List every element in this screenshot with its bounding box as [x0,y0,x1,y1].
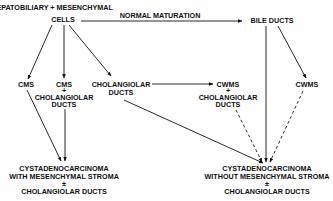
outcome-with-line4: CHOLANGIOLAR DUCTS [21,187,107,196]
edge-cwms-ductal-to-outcome-without [236,110,262,162]
cholangiolar-line2: DUCTS [109,88,134,97]
origin-label-line2: CELLS [51,15,75,24]
edge-origin-to-cholangiolar [69,25,111,76]
edge-cwms-to-outcome-without [270,91,303,162]
outcome-without-line4: CHOLANGIOLAR DUCTS [224,187,310,196]
cms-ductal-line4: DUCTS [52,100,77,109]
cwms-ductal-line4: DUCTS [216,100,241,109]
edge-cholangiolar-to-outcome-without [124,100,263,163]
node-cholangiolar: CHOLANGIOLAR DUCTS [92,80,152,97]
origin-label-line1: HEPATOBILIARY + MESENCHYMAL [0,3,113,12]
edges [27,21,306,163]
cms-left-label: CMS [18,80,34,89]
cwms-right-label: CWMS [296,80,319,89]
edge-origin-to-cms [28,25,52,79]
bile-ducts-label: BILE DUCTS [250,16,293,25]
node-outcome-with-stroma: CYSTADENOCARCINOMA WITH MESENCHYMAL STRO… [9,164,119,196]
node-outcome-without-stroma: CYSTADENOCARCINOMA WITHOUT MESENCHYMAL S… [205,164,330,196]
pathogenesis-diagram: HEPATOBILIARY + MESENCHYMAL CELLS NORMAL… [0,0,333,201]
edge-bile-ducts-to-cwms [278,26,306,78]
node-cms-ductal: CMS + CHOLANGIOLAR DUCTS [35,80,95,109]
normal-maturation-label: NORMAL MATURATION [120,11,201,20]
